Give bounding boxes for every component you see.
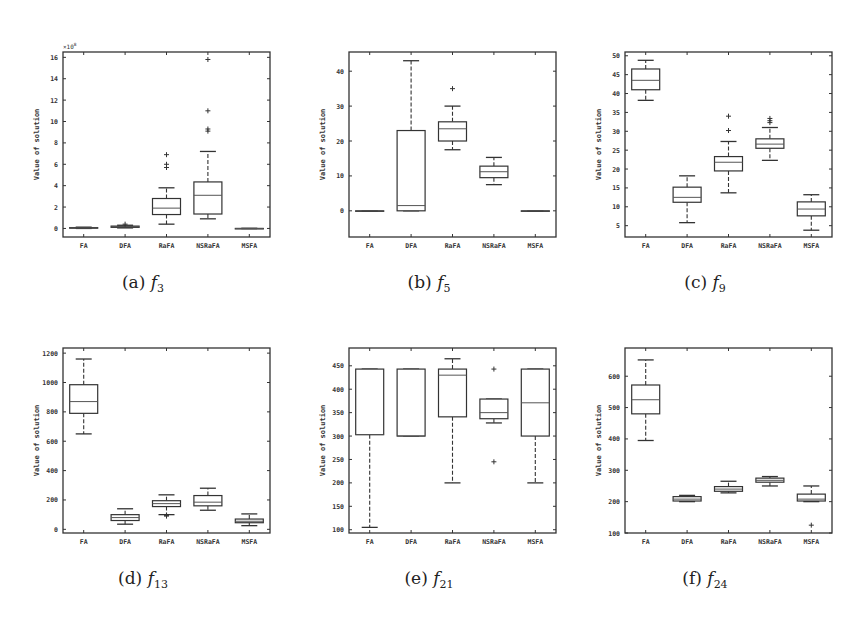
box-rafa	[439, 359, 467, 483]
boxplot-chart: 100200300400500600Value of solutionFADFA…	[562, 296, 848, 556]
x-tick-label: NSRaFA	[482, 538, 506, 546]
x-tick-label: DFA	[681, 538, 693, 546]
y-tick-label: 2	[54, 204, 58, 212]
y-tick-label: 200	[608, 498, 620, 506]
y-axis-label: Value of solution	[319, 405, 327, 477]
boxplot-panel-d: 020040060080010001200Value of solutionFA…	[0, 296, 286, 596]
y-tick-label: 12	[50, 97, 58, 105]
y-tick-label: 400	[332, 386, 344, 394]
y-tick-label: 450	[332, 362, 344, 370]
iqr-box	[70, 385, 98, 414]
x-tick-label: RaFA	[721, 242, 737, 250]
panel-caption: (a) f3	[0, 272, 286, 295]
iqr-box	[194, 182, 222, 214]
y-tick-label: 1000	[42, 379, 58, 387]
iqr-box	[715, 157, 743, 171]
outlier-marker-icon	[205, 108, 210, 113]
box-nsrafa	[756, 116, 784, 160]
y-tick-label: 200	[46, 496, 58, 504]
x-tick-label: FA	[366, 538, 374, 546]
iqr-box	[632, 69, 660, 90]
y-tick-label: 100	[332, 526, 344, 534]
y-tick-label: 0	[340, 207, 344, 215]
x-tick-label: MSFA	[527, 242, 543, 250]
y-tick-label: 0	[54, 526, 58, 534]
y-tick-label: 300	[608, 467, 620, 475]
box-msfa	[521, 369, 549, 483]
y-tick-label: 500	[608, 404, 620, 412]
x-tick-label: DFA	[405, 538, 417, 546]
x-tick-label: NSRaFA	[196, 242, 220, 250]
x-tick-label: NSRaFA	[758, 242, 782, 250]
y-axis-label: Value of solution	[595, 405, 603, 477]
outlier-marker-icon	[767, 116, 772, 121]
box-msfa	[797, 486, 825, 528]
box-nsrafa	[194, 488, 222, 510]
box-dfa	[397, 369, 425, 436]
box-nsrafa	[480, 367, 508, 465]
iqr-box	[797, 494, 825, 501]
boxplot-chart: 5101520253035404550Value of solutionFADF…	[562, 0, 848, 260]
x-tick-label: DFA	[119, 242, 131, 250]
y-tick-label: 150	[332, 503, 344, 511]
boxplot-panel-b: 010203040Value of solutionFADFARaFANSRaF…	[286, 0, 572, 300]
x-tick-label: MSFA	[803, 538, 819, 546]
x-tick-label: MSFA	[803, 242, 819, 250]
outlier-marker-icon	[726, 128, 731, 133]
box-fa	[632, 360, 660, 441]
y-tick-label: 16	[50, 54, 58, 62]
x-tick-label: FA	[366, 242, 374, 250]
box-rafa	[153, 152, 181, 224]
box-dfa	[673, 495, 701, 501]
y-tick-label: 6	[54, 161, 58, 169]
y-tick-label: 1200	[42, 350, 58, 358]
x-tick-label: RaFA	[445, 538, 461, 546]
box-nsrafa	[756, 477, 784, 486]
box-dfa	[111, 509, 139, 524]
boxplot-chart: 0246810121416Value of solution×108FADFAR…	[0, 0, 286, 260]
box-dfa	[397, 61, 425, 211]
box-msfa	[235, 228, 263, 229]
box-rafa	[715, 481, 743, 493]
y-tick-label: 600	[608, 373, 620, 381]
box-nsrafa	[480, 157, 508, 184]
box-rafa	[153, 495, 181, 519]
box-dfa	[111, 222, 139, 228]
iqr-box	[480, 399, 508, 419]
box-dfa	[673, 176, 701, 223]
x-tick-label: DFA	[119, 538, 131, 546]
boxplot-chart: 020040060080010001200Value of solutionFA…	[0, 296, 286, 556]
y-axis-label: Value of solution	[319, 109, 327, 181]
iqr-box	[756, 139, 784, 148]
box-rafa	[439, 86, 467, 150]
x-tick-label: MSFA	[241, 242, 257, 250]
panel-caption: (c) f9	[562, 272, 848, 295]
y-tick-label: 300	[332, 433, 344, 441]
y-tick-label: 30	[336, 103, 344, 111]
x-tick-label: DFA	[681, 242, 693, 250]
y-tick-label: 800	[46, 408, 58, 416]
y-tick-label: 20	[612, 166, 620, 174]
x-tick-label: RaFA	[159, 538, 175, 546]
y-tick-label: 8	[54, 139, 58, 147]
y-tick-label: 40	[336, 68, 344, 76]
x-tick-label: FA	[642, 538, 650, 546]
outlier-marker-icon	[164, 513, 169, 518]
x-tick-label: MSFA	[527, 538, 543, 546]
panel-caption: (b) f5	[286, 272, 572, 295]
y-tick-label: 50	[612, 52, 620, 60]
y-tick-label: 15	[612, 184, 620, 192]
outlier-marker-icon	[809, 523, 814, 528]
boxplot-chart: 010203040Value of solutionFADFARaFANSRaF…	[286, 0, 572, 260]
y-tick-label: 14	[50, 75, 58, 83]
x-tick-label: NSRaFA	[758, 538, 782, 546]
outlier-marker-icon	[491, 367, 496, 372]
outlier-marker-icon	[164, 152, 169, 157]
outlier-marker-icon	[205, 57, 210, 62]
y-tick-label: 10	[612, 203, 620, 211]
x-tick-label: FA	[80, 538, 88, 546]
iqr-box	[397, 131, 425, 211]
iqr-box	[194, 496, 222, 506]
iqr-box	[397, 369, 425, 436]
box-msfa	[797, 195, 825, 230]
